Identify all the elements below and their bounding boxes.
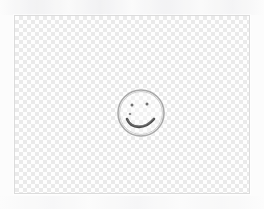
drawing-canvas[interactable] (14, 15, 250, 194)
bottom-background-strip (0, 196, 264, 209)
left-eye-dot (131, 104, 134, 107)
app-root (0, 0, 264, 209)
smiley-face-drawing[interactable] (15, 16, 250, 194)
nose-dot (129, 113, 132, 116)
drawing-layer[interactable] (15, 16, 249, 193)
face-wash (116, 88, 166, 138)
right-eye-dot (146, 103, 149, 106)
top-background-strip (0, 0, 264, 15)
